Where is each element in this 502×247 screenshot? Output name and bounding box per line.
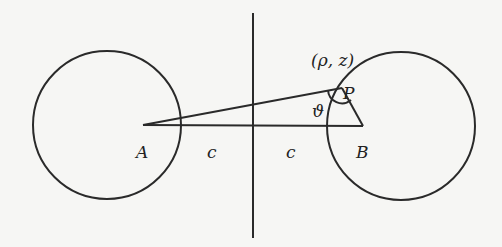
segment-AB bbox=[143, 125, 363, 126]
label-c-left: c bbox=[207, 142, 217, 162]
label-A: A bbox=[134, 142, 148, 162]
two-circle-diagram: A c c B P (ρ, z) ϑ bbox=[0, 0, 502, 247]
label-angle: ϑ bbox=[312, 101, 324, 121]
label-c-right: c bbox=[286, 142, 296, 162]
label-coords: (ρ, z) bbox=[311, 50, 354, 70]
label-B: B bbox=[355, 142, 369, 162]
label-P: P bbox=[342, 83, 355, 103]
